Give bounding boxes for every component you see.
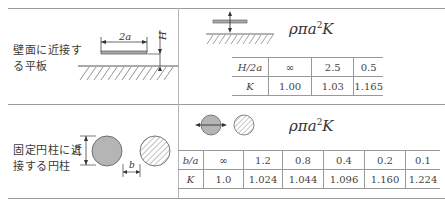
- svg-text:H: H: [157, 31, 168, 41]
- k-value: 1.044: [283, 170, 324, 189]
- bottom-rule: [8, 198, 445, 199]
- param-header: b/a: [178, 151, 204, 170]
- param-header: H/2a: [232, 58, 268, 77]
- svg-text:b: b: [129, 160, 135, 170]
- row1-formula: ρπa2K: [289, 20, 334, 38]
- cylinder-motion-icon: [178, 104, 298, 144]
- k-value: 1.024: [244, 170, 283, 189]
- param-value: 2.5: [312, 58, 354, 77]
- svg-text:2a: 2a: [118, 31, 131, 42]
- param-value: 0.5: [354, 58, 383, 77]
- k-value: 1.00: [268, 77, 311, 96]
- svg-text:2a: 2a: [72, 145, 82, 157]
- param-value: ∞: [204, 151, 244, 170]
- param-value: ∞: [268, 58, 311, 77]
- param-value: 0.8: [283, 151, 324, 170]
- k-value: 1.224: [406, 170, 441, 189]
- param-value: 0.4: [324, 151, 365, 170]
- param-value: 0.1: [406, 151, 441, 170]
- row1-k-table: H/2a ∞ 2.5 0.5 K 1.00 1.03 1.165: [232, 57, 383, 96]
- row2-formula: ρπa2K: [289, 117, 334, 135]
- k-value: 1.160: [365, 170, 406, 189]
- formula-k: K: [322, 20, 333, 38]
- k-header: K: [232, 77, 268, 96]
- k-value: 1.03: [312, 77, 354, 96]
- formula-k: K: [322, 117, 333, 135]
- k-value: 1.165: [354, 77, 383, 96]
- table-row: H/2a ∞ 2.5 0.5: [232, 58, 383, 77]
- table-row: K 1.00 1.03 1.165: [232, 77, 383, 96]
- plate-near-wall-diagram: 2a H: [0, 0, 178, 104]
- k-value: 1.0: [204, 170, 244, 189]
- table-row: K 1.0 1.024 1.044 1.096 1.160 1.224: [178, 170, 440, 189]
- table-row: b/a ∞ 1.2 0.8 0.4 0.2 0.1: [178, 151, 440, 170]
- k-header: K: [178, 170, 204, 189]
- row2-k-table: b/a ∞ 1.2 0.8 0.4 0.2 0.1 K 1.0 1.024 1.…: [178, 150, 440, 189]
- cylinder-pair-diagram: 2a b: [0, 104, 178, 198]
- formula-base: ρπa: [289, 117, 317, 135]
- param-value: 0.2: [365, 151, 406, 170]
- formula-base: ρπa: [289, 20, 317, 38]
- plate-motion-icon: [178, 8, 298, 48]
- param-value: 1.2: [244, 151, 283, 170]
- k-value: 1.096: [324, 170, 365, 189]
